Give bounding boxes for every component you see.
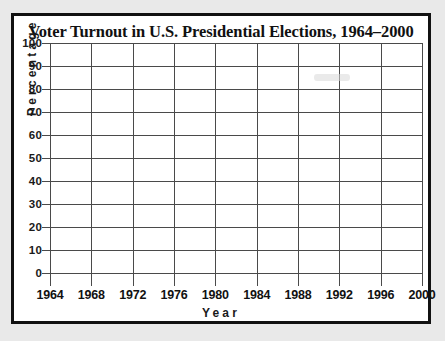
y-tick-label: 0 (8, 267, 42, 279)
x-tick-label: 1996 (358, 288, 404, 302)
y-tick-label: 100 (8, 37, 42, 49)
x-tick-label: 1972 (110, 288, 156, 302)
y-tick-mark (42, 66, 50, 67)
x-tick-label: 1992 (316, 288, 362, 302)
x-tick-label: 1984 (234, 288, 280, 302)
y-tick-label: 10 (8, 244, 42, 256)
y-tick-label: 30 (8, 198, 42, 210)
vertical-gridline (215, 43, 216, 286)
y-tick-mark (42, 43, 50, 44)
x-axis-tick-labels: 1964196819721976198019841988199219962000 (50, 288, 422, 304)
horizontal-gridline (50, 43, 422, 44)
vertical-gridline (91, 43, 92, 286)
horizontal-gridline (50, 66, 422, 67)
x-axis-title: Year (14, 306, 428, 320)
horizontal-gridline (50, 181, 422, 182)
vertical-gridline (174, 43, 175, 286)
y-tick-mark (42, 89, 50, 90)
x-tick-label: 1968 (68, 288, 114, 302)
x-tick-label: 1980 (192, 288, 238, 302)
horizontal-gridline (50, 158, 422, 159)
y-tick-mark (42, 204, 50, 205)
plot-area: 1009080706050403020100 (50, 43, 422, 273)
y-tick-mark (42, 227, 50, 228)
x-tick-label: 1976 (151, 288, 197, 302)
y-tick-mark (42, 112, 50, 113)
vertical-gridline (298, 43, 299, 286)
horizontal-gridline (50, 112, 422, 113)
y-tick-mark (42, 135, 50, 136)
y-tick-label: 90 (8, 60, 42, 72)
horizontal-gridline (50, 135, 422, 136)
y-tick-label: 20 (8, 221, 42, 233)
x-tick-label: 1988 (275, 288, 321, 302)
vertical-gridline (50, 43, 51, 286)
y-tick-mark (42, 273, 50, 274)
horizontal-gridline (50, 250, 422, 251)
horizontal-gridline (50, 89, 422, 90)
y-tick-label: 80 (8, 83, 42, 95)
chart-title: Voter Turnout in U.S. Presidential Elect… (14, 22, 428, 42)
vertical-gridline (257, 43, 258, 286)
x-tick-label: 2000 (399, 288, 445, 302)
y-tick-mark (42, 158, 50, 159)
y-tick-label: 50 (8, 152, 42, 164)
vertical-gridline (422, 43, 423, 286)
scan-artifact (314, 74, 350, 81)
y-tick-label: 70 (8, 106, 42, 118)
horizontal-gridline (50, 273, 422, 274)
vertical-gridline (381, 43, 382, 286)
y-tick-mark (42, 181, 50, 182)
horizontal-gridline (50, 227, 422, 228)
vertical-gridline (133, 43, 134, 286)
chart-frame: Voter Turnout in U.S. Presidential Elect… (11, 13, 431, 324)
x-tick-label: 1964 (27, 288, 73, 302)
horizontal-gridline (50, 204, 422, 205)
y-tick-mark (42, 250, 50, 251)
y-tick-label: 60 (8, 129, 42, 141)
y-tick-label: 40 (8, 175, 42, 187)
